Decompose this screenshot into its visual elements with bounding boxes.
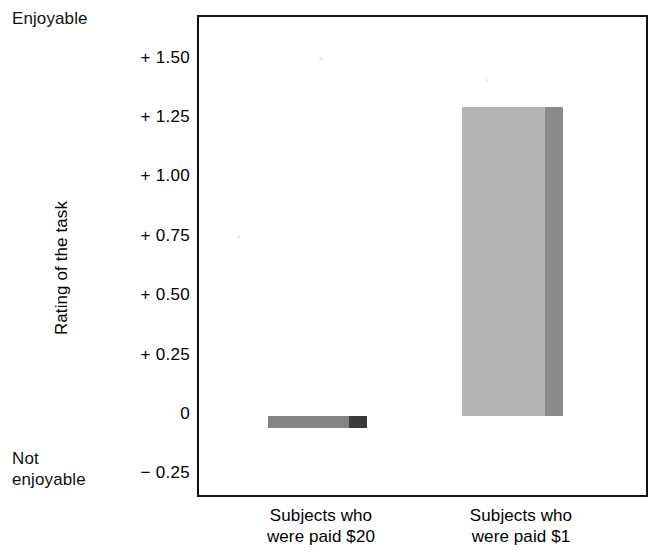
y-axis-tick-label-holder: + 1.00 (0, 167, 190, 184)
bar-front-face (462, 107, 545, 416)
paper-speck (237, 235, 240, 238)
y-axis-tick-label-holder: + 0.50 (0, 286, 190, 303)
plot-area (197, 15, 648, 497)
x-axis-category-label-0: Subjects who were paid $20 (206, 505, 436, 547)
y-axis-tick-label: − 0.25 (94, 464, 190, 481)
y-axis-tick-label: + 1.00 (94, 167, 190, 184)
y-axis-tick-label: 0 (94, 405, 190, 422)
y-axis-tick-label: + 1.50 (94, 49, 190, 66)
y-axis-tick-label: + 0.25 (94, 346, 190, 363)
bar-0 (268, 416, 349, 428)
scale-anchor-high-label: Enjoyable (12, 8, 88, 29)
bar-side-face (545, 107, 563, 416)
bar-1 (462, 107, 545, 416)
y-axis-tick-label: + 0.50 (94, 286, 190, 303)
bar-front-face (268, 416, 349, 428)
x-axis-category-label-1: Subjects who were paid $1 (406, 505, 636, 547)
paper-speck (319, 57, 323, 60)
y-axis-tick-label-holder: 0 (0, 405, 190, 422)
y-axis-tick-label-holder: + 0.25 (0, 346, 190, 363)
bar-chart-figure: Enjoyable Not enjoyable Rating of the ta… (0, 0, 653, 557)
y-axis-tick-label-holder: + 1.50 (0, 49, 190, 66)
y-axis-tick-label: + 1.25 (94, 108, 190, 125)
y-axis-tick-label-holder: + 1.25 (0, 108, 190, 125)
bar-side-face (349, 416, 367, 428)
paper-speck (485, 79, 488, 82)
y-axis-tick-label-holder: + 0.75 (0, 227, 190, 244)
y-axis-tick-label: + 0.75 (94, 227, 190, 244)
y-axis-title: Rating of the task (52, 168, 72, 368)
y-axis-tick-label-holder: − 0.25 (0, 464, 190, 481)
